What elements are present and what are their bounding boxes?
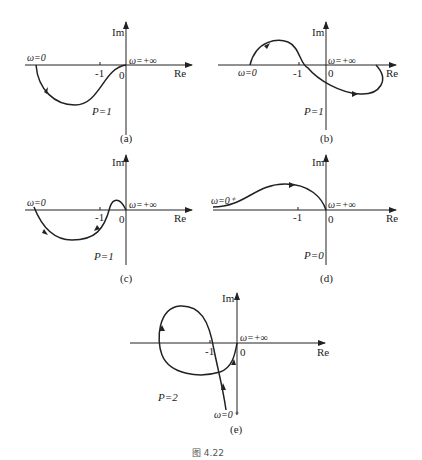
panel-c-im-label: Im (112, 157, 124, 168)
panel-d-caption: (d) (320, 273, 333, 284)
panel-c-start-label: ω=0 (27, 198, 46, 208)
panel-e-end-label: ω=+∞ (240, 333, 268, 343)
panel-e-p-label: P=2 (158, 392, 178, 403)
panel-e-caption: (e) (230, 424, 242, 435)
panel-a-axes (25, 22, 192, 135)
panel-c-re-label: Re (174, 213, 186, 224)
panel-a-start-label: ω=0 (27, 53, 46, 63)
panel-a-end-label: ω=+∞ (129, 56, 157, 66)
panel-d-origin: 0 (328, 214, 334, 225)
panel-b-im-label: Im (312, 27, 324, 38)
panel-a-origin: 0 (119, 70, 125, 81)
panel-d-minus-one: -1 (293, 212, 302, 223)
panel-e-re-label: Re (317, 347, 329, 358)
panel-d-re-label: Re (386, 213, 398, 224)
panel-d-p-label: P=0 (304, 250, 324, 261)
panel-c-end-label: ω=+∞ (129, 200, 157, 210)
panel-b-caption: (b) (320, 133, 333, 144)
panel-d-end-label: ω=+∞ (328, 200, 356, 210)
panel-d-direction-arrow-icon (289, 182, 295, 188)
panel-b-direction-arrow-icon (352, 91, 358, 97)
nyquist-plots-figure (0, 0, 422, 460)
panel-b-re-label: Re (386, 68, 398, 79)
panel-b-p-label: P=1 (304, 106, 324, 117)
panel-a-im-label: Im (112, 27, 124, 38)
panel-c-origin: 0 (119, 214, 125, 225)
panel-c-minus-one: -1 (95, 212, 104, 223)
panel-a-minus-one: -1 (95, 68, 104, 79)
panel-a-curve (36, 65, 126, 105)
panel-c-curve (34, 200, 126, 240)
panel-b-curve (250, 40, 383, 94)
panel-d-start-label: ω=0⁺ (211, 196, 235, 206)
panel-b-end-label: ω=+∞ (328, 56, 356, 66)
panel-e-minus-one: -1 (205, 346, 214, 357)
panel-c-p-label: P=1 (94, 251, 114, 262)
panel-c-caption: (c) (120, 273, 132, 284)
panel-b-start-label: ω=0 (238, 68, 257, 78)
panel-d-im-label: Im (312, 157, 324, 168)
panel-b-minus-one: -1 (293, 68, 302, 79)
panel-a-p-label: P=1 (92, 106, 112, 117)
panel-a-caption: (a) (120, 133, 132, 144)
panel-e-origin: 0 (240, 347, 246, 358)
figure-caption: 图 4.22 (192, 446, 224, 459)
panel-a-re-label: Re (174, 68, 186, 79)
panel-e-im-label: Im (222, 293, 234, 304)
panel-b-origin: 0 (328, 68, 334, 79)
panel-e-start-label: ω=0⁺ (214, 410, 238, 420)
